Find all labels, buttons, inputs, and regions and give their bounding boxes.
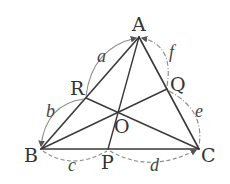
- label-arc-a: a: [97, 46, 106, 66]
- label-arc-f: f: [169, 42, 177, 62]
- label-point-Q: Q: [170, 73, 186, 95]
- label-point-C: C: [201, 144, 216, 166]
- label-arc-b: b: [46, 101, 55, 121]
- label-arc-c: c: [68, 155, 76, 175]
- label-point-R: R: [70, 77, 85, 99]
- label-point-O: O: [114, 115, 130, 137]
- arc-a: [86, 38, 136, 96]
- segment-CR: [86, 98, 199, 149]
- triangle-diagram: A B C R Q O P a b c d e f: [0, 0, 230, 184]
- label-point-P: P: [101, 151, 114, 173]
- label-arc-e: e: [195, 101, 203, 121]
- diagram-canvas: A B C R Q O P a b c d e f: [0, 0, 230, 184]
- label-point-B: B: [24, 144, 38, 166]
- segment-BQ: [41, 89, 167, 149]
- label-arc-d: d: [150, 155, 160, 175]
- label-point-A: A: [131, 13, 146, 35]
- arc-f: [142, 38, 168, 86]
